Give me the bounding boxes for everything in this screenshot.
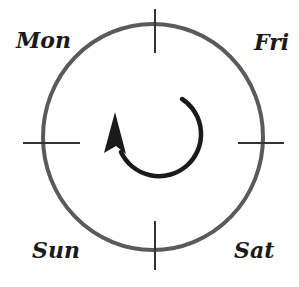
label-fri: Fri: [253, 29, 289, 55]
label-sat: Sat: [234, 237, 274, 263]
label-mon: Mon: [15, 27, 71, 53]
weekly-cycle-diagram: Mon Fri Sun Sat: [0, 0, 299, 287]
dial-circle: [43, 24, 263, 250]
rotation-arc: [121, 99, 201, 176]
rotation-arrow-icon: [104, 99, 201, 176]
label-sun: Sun: [32, 237, 80, 263]
arrowhead: [104, 112, 126, 154]
